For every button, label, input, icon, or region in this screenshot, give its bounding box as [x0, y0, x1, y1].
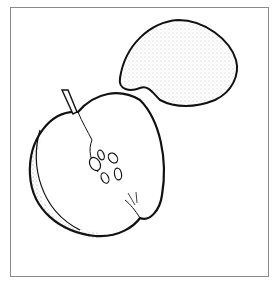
- apple-stem: [62, 90, 77, 114]
- apple-slice: [120, 20, 237, 106]
- apple-illustration: [0, 0, 277, 288]
